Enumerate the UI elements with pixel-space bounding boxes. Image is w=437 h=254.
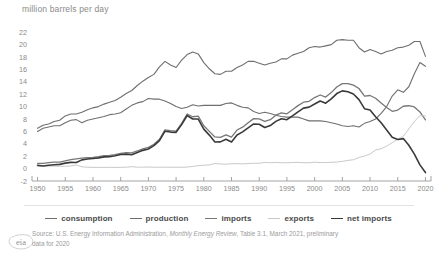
legend-swatch-icon	[331, 218, 343, 219]
x-axis-tick-label: 1965	[113, 184, 129, 193]
x-axis-tick-label: 1950	[30, 184, 46, 193]
y-axis-tick-label: 20	[19, 40, 27, 49]
chart-legend: consumptionproductionimportsexportsnet i…	[0, 210, 437, 226]
source-line1-pre: Source: U.S. Energy Information Administ…	[32, 230, 169, 237]
legend-swatch-icon	[130, 218, 142, 219]
y-axis-tick-label: 2	[23, 152, 27, 161]
y-axis-tick-label: 18	[19, 53, 27, 62]
legend-label: imports	[221, 214, 251, 223]
x-axis-tick-label: 2020	[417, 184, 433, 193]
chart-container: million barrels per day -202468101214161…	[0, 0, 437, 254]
y-axis-tick-label: 4	[23, 139, 27, 148]
legend-item-imports[interactable]: imports	[205, 214, 251, 223]
source-note: Source: U.S. Energy Information Administ…	[32, 229, 362, 249]
y-axis-tick-label: 14	[19, 77, 27, 86]
x-axis-tick-label: 2010	[362, 184, 378, 193]
series-line-consumption	[38, 40, 426, 129]
legend-item-consumption[interactable]: consumption	[45, 214, 112, 223]
legend-swatch-icon	[268, 218, 280, 219]
x-axis-tick-label: 1980	[196, 184, 212, 193]
legend-label: net imports	[347, 214, 392, 223]
y-axis-tick-label: 8	[23, 115, 27, 124]
x-axis-tick-label: 2000	[307, 184, 323, 193]
series-line-imports	[38, 84, 426, 164]
source-publication: Monthly Energy Review	[169, 230, 236, 237]
x-axis-tick-label: 2005	[334, 184, 350, 193]
x-axis-tick-label: 2015	[390, 184, 406, 193]
svg-text:eia: eia	[16, 237, 26, 247]
y-axis-tick-label: -2	[21, 177, 27, 186]
x-axis-tick-label: 1990	[251, 184, 267, 193]
x-axis-tick-label: 1960	[85, 184, 101, 193]
legend-swatch-icon	[45, 218, 57, 219]
y-axis-tick-label: 16	[19, 65, 27, 74]
x-axis-tick-label: 1970	[140, 184, 156, 193]
legend-label: consumption	[61, 214, 112, 223]
series-line-production	[38, 63, 426, 132]
y-axis-tick-label: 6	[23, 127, 27, 136]
legend-label: production	[146, 214, 189, 223]
legend-divider	[24, 205, 414, 206]
y-axis-tick-label: 10	[19, 102, 27, 111]
x-axis-tick-label: 1955	[57, 184, 73, 193]
y-axis-tick-label: 0	[23, 164, 27, 173]
source-line2: data for 2020	[32, 239, 362, 249]
legend-item-production[interactable]: production	[130, 214, 189, 223]
legend-swatch-icon	[205, 218, 217, 219]
y-axis-tick-label: 22	[19, 28, 27, 37]
x-axis-tick-label: 1985	[224, 184, 240, 193]
legend-item-net-imports[interactable]: net imports	[331, 214, 392, 223]
legend-label: exports	[284, 214, 314, 223]
y-axis-tick-label: 12	[19, 90, 27, 99]
eia-logo-icon: eia	[8, 232, 34, 250]
source-line1-post: , Table 3.1, March 2021, preliminary	[237, 230, 338, 237]
x-axis-tick-label: 1975	[168, 184, 184, 193]
x-axis-tick-label: 1995	[279, 184, 295, 193]
legend-item-exports[interactable]: exports	[268, 214, 314, 223]
